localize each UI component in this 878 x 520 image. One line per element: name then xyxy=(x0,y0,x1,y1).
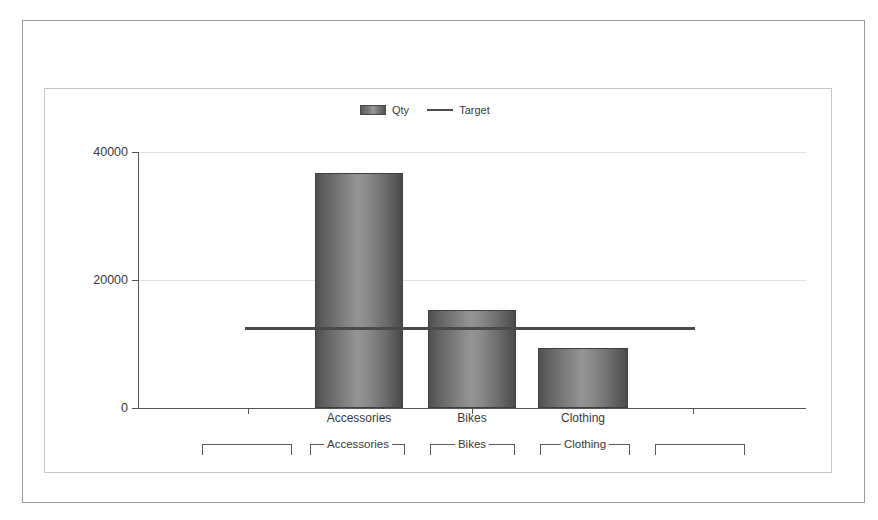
legend-label-qty: Qty xyxy=(392,104,409,116)
legend-item-qty[interactable]: Qty xyxy=(360,104,409,116)
chart-legend: Qty Target xyxy=(360,104,490,116)
chart-panel xyxy=(44,88,832,473)
legend-item-target[interactable]: Target xyxy=(427,104,490,116)
legend-label-target: Target xyxy=(459,104,490,116)
report-canvas: Qty Target 40000 20000 0 xyxy=(0,0,878,520)
legend-swatch-qty-box-icon xyxy=(360,105,386,115)
legend-swatch-target-line-icon xyxy=(427,109,453,111)
